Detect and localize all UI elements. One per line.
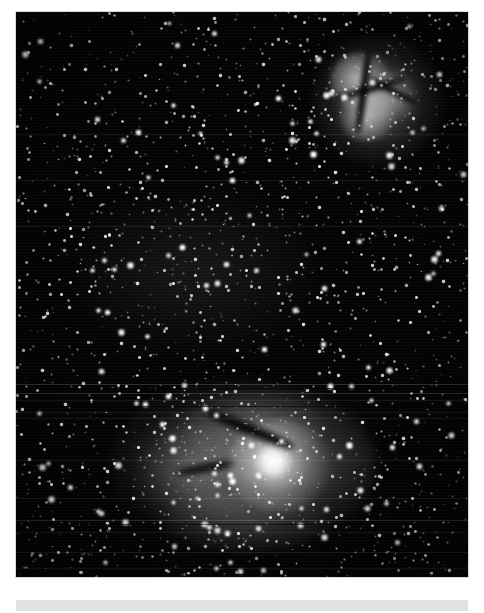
astro-image-frame: [16, 12, 468, 577]
caption-bar: [16, 600, 468, 611]
page-root: [0, 0, 484, 613]
